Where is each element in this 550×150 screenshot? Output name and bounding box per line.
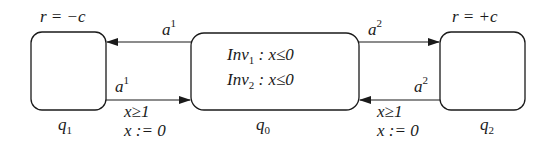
edge-q2-q0-guard: x≥1 <box>376 102 402 121</box>
state-q1-label: q1 <box>58 115 72 136</box>
invariant-1: Inv1 : x≤0 <box>226 45 294 66</box>
edge-q0-q1-action: a1 <box>162 17 176 39</box>
state-q2-label: q2 <box>480 115 494 136</box>
state-q0-label: q0 <box>256 115 271 136</box>
state-q2-box <box>440 32 525 110</box>
edge-q1-q0-action: a1 <box>115 74 129 96</box>
edge-q2-q0-action: a2 <box>414 74 428 96</box>
edge-q2-q0-reset: x := 0 <box>376 121 419 140</box>
invariant-2: Inv2 : x≤0 <box>226 70 294 91</box>
automaton-diagram: r = −c r = +c q1 q0 q2 Inv1 : x≤0 Inv2 :… <box>0 0 550 150</box>
edge-q1-q0-guard: x≥1 <box>123 102 149 121</box>
state-q2-annotation: r = +c <box>452 7 498 26</box>
edge-q1-q0-reset: x := 0 <box>123 121 166 140</box>
state-q1-box <box>31 32 106 110</box>
edge-q0-q2-action: a2 <box>368 17 382 39</box>
state-q1-annotation: r = −c <box>40 7 86 26</box>
